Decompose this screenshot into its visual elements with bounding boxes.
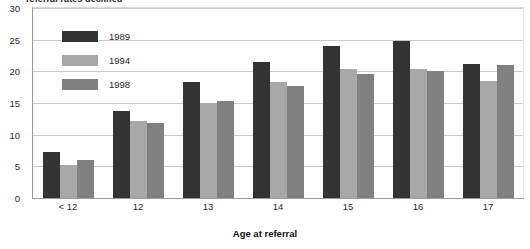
bar <box>43 152 60 198</box>
bar <box>130 121 147 198</box>
x-axis-tick-label: 17 <box>453 201 523 212</box>
bar <box>113 111 130 198</box>
bar <box>270 82 287 198</box>
x-axis-title: Age at referral <box>0 228 530 239</box>
legend-swatch <box>62 55 98 66</box>
legend-swatch <box>62 79 98 90</box>
legend-item: 1989 <box>62 24 130 48</box>
bar <box>200 103 217 198</box>
legend-label: 1994 <box>109 55 130 66</box>
bar-chart: referral rates declined 051015202530 < 1… <box>0 0 530 249</box>
x-axis-tick-label: < 12 <box>33 201 103 212</box>
legend-swatch <box>62 31 98 42</box>
y-axis-tick-label: 30 <box>0 3 20 14</box>
bar <box>287 86 304 198</box>
bar <box>183 82 200 198</box>
bar-group <box>313 8 383 198</box>
y-axis-tick-label: 10 <box>0 129 20 140</box>
bar <box>77 160 94 198</box>
y-axis-tick-label: 5 <box>0 161 20 172</box>
y-axis-tick-label: 15 <box>0 98 20 109</box>
legend: 198919941998 <box>62 24 130 96</box>
bar <box>393 41 410 198</box>
bar-group <box>243 8 313 198</box>
bar <box>217 101 234 198</box>
y-axis-tick-label: 0 <box>0 193 20 204</box>
bar-group <box>383 8 453 198</box>
bar <box>60 165 77 198</box>
legend-item: 1998 <box>62 72 130 96</box>
x-axis-tick-label: 15 <box>313 201 383 212</box>
legend-label: 1998 <box>109 79 130 90</box>
bar <box>463 64 480 198</box>
bar <box>147 123 164 198</box>
x-axis-tick-label: 16 <box>383 201 453 212</box>
bar <box>497 65 514 198</box>
y-axis-tick-label: 25 <box>0 34 20 45</box>
x-axis: < 12121314151617 <box>33 201 523 212</box>
x-axis-tick-label: 12 <box>103 201 173 212</box>
x-axis-tick-label: 14 <box>243 201 313 212</box>
bar <box>480 81 497 198</box>
bar <box>323 46 340 198</box>
bar-group <box>453 8 523 198</box>
y-axis-tick-label: 20 <box>0 66 20 77</box>
bar <box>253 62 270 198</box>
legend-label: 1989 <box>109 31 130 42</box>
bar <box>340 69 357 198</box>
bar <box>410 69 427 198</box>
bar <box>357 74 374 198</box>
bar-group <box>173 8 243 198</box>
legend-item: 1994 <box>62 48 130 72</box>
x-axis-tick-label: 13 <box>173 201 243 212</box>
bar <box>427 71 444 198</box>
chart-title: referral rates declined <box>26 0 122 3</box>
